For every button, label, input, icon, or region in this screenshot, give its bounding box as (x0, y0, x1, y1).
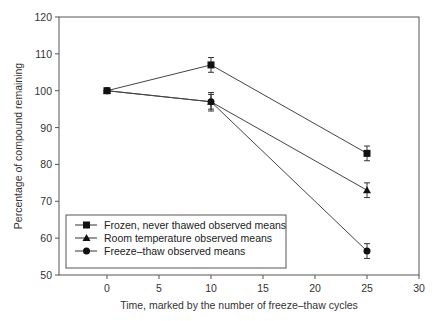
y-tick-label: 60 (40, 232, 52, 244)
square-marker-icon (364, 150, 371, 157)
legend-label: Freeze–thaw observed means (104, 245, 245, 257)
x-tick-label: 5 (156, 282, 162, 294)
y-tick-label: 50 (40, 269, 52, 281)
circle-marker-icon (104, 87, 111, 94)
legend: Frozen, never thawed observed means Room… (66, 215, 286, 268)
y-tick-label: 120 (34, 11, 52, 23)
circle-marker-icon (83, 248, 90, 255)
triangle-marker-icon (363, 186, 371, 193)
legend-label: Room temperature observed means (104, 232, 272, 244)
y-axis: 5060708090100110120 (34, 11, 59, 281)
legend-item-frozen: Frozen, never thawed observed means (75, 219, 286, 231)
x-tick-label: 10 (205, 282, 217, 294)
x-axis-title: Time, marked by the number of freeze–tha… (120, 299, 358, 311)
circle-marker-icon (208, 98, 215, 105)
y-tick-label: 100 (34, 85, 52, 97)
legend-item-room-temperature: Room temperature observed means (75, 232, 272, 244)
x-tick-label: 20 (309, 282, 321, 294)
y-tick-label: 110 (35, 48, 52, 60)
y-tick-label: 90 (40, 122, 52, 134)
square-marker-icon (208, 61, 215, 68)
y-axis-title: Percentage of compound remaining (12, 63, 24, 230)
y-tick-label: 70 (40, 195, 52, 207)
series-square (104, 58, 371, 161)
line-chart: 5060708090100110120 051015202530 Percent… (0, 0, 437, 321)
circle-marker-icon (364, 248, 371, 255)
x-tick-label: 0 (104, 282, 110, 294)
x-tick-label: 15 (257, 282, 269, 294)
x-axis: 051015202530 (104, 275, 425, 294)
x-tick-label: 25 (361, 282, 373, 294)
square-marker-icon (83, 222, 90, 229)
x-tick-label: 30 (413, 282, 425, 294)
legend-label: Frozen, never thawed observed means (104, 219, 286, 231)
y-tick-label: 80 (40, 158, 52, 170)
series-triangle (103, 87, 371, 198)
